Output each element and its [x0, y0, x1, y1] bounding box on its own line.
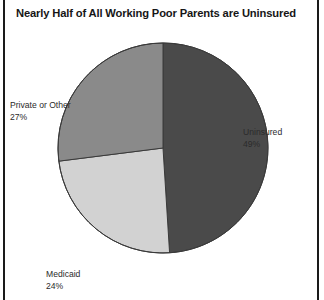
chart-page: Nearly Half of All Working Poor Parents … — [0, 0, 324, 300]
slice-label-private-or-other: Private or Other 27% — [10, 100, 71, 123]
pie-slice-medicaid[interactable] — [59, 148, 170, 253]
plot-area: Private or Other 27% Medicaid 24% Uninsu… — [0, 26, 324, 300]
slice-label-medicaid-name: Medicaid — [46, 269, 80, 281]
pie-slice-private-or-other[interactable] — [58, 43, 163, 161]
slice-label-private-or-other-name: Private or Other — [10, 100, 71, 112]
slice-label-uninsured-name: Uninsured — [243, 127, 282, 139]
slice-label-medicaid-percent: 24% — [46, 281, 80, 293]
pie-chart — [0, 26, 324, 300]
slice-label-private-or-other-percent: 27% — [10, 112, 71, 124]
slice-label-uninsured-percent: 49% — [243, 139, 282, 151]
page-title: Nearly Half of All Working Poor Parents … — [16, 6, 306, 20]
slice-label-medicaid: Medicaid 24% — [46, 269, 80, 292]
slice-label-uninsured: Uninsured 49% — [243, 127, 282, 150]
